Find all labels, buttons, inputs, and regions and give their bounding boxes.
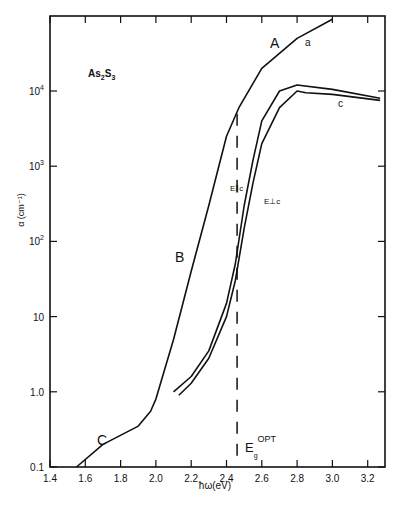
label-a: a — [305, 37, 311, 48]
plot-frame — [50, 16, 385, 467]
plot-area: 1.41.61.82.02.22.42.62.83.03.20.11.01010… — [16, 16, 385, 491]
x-tick-label: 2.2 — [184, 473, 198, 484]
y-tick-label: 10 — [33, 312, 45, 323]
y-axis-label: α (cm⁻¹) — [16, 193, 26, 227]
label-B: B — [175, 249, 184, 265]
material-title: As2S3 — [88, 68, 115, 81]
x-axis-label: ħω(eV) — [199, 480, 231, 491]
x-tick-label: 3.2 — [361, 473, 375, 484]
chart: 1.41.61.82.02.22.42.62.83.03.20.11.01010… — [0, 0, 397, 506]
label-e-parallel-c: E∥c — [230, 184, 243, 193]
x-tick-label: 1.6 — [78, 473, 92, 484]
y-tick-label: 0.1 — [30, 462, 44, 473]
x-tick-label: 2.0 — [149, 473, 163, 484]
label-e-perp-c: E⊥c — [264, 197, 280, 206]
label-C: C — [97, 432, 107, 448]
label-c: c — [338, 98, 343, 109]
x-tick-label: 1.4 — [43, 473, 57, 484]
label-A: A — [270, 35, 280, 51]
x-tick-label: 3.0 — [325, 473, 339, 484]
y-tick-label: 1.0 — [30, 387, 44, 398]
label-eg-opt: EgOPT — [245, 434, 277, 460]
curve-e-parallel-c — [174, 85, 381, 392]
y-tick-label: 103 — [29, 159, 44, 172]
y-tick-label: 102 — [29, 234, 44, 247]
x-tick-label: 1.8 — [114, 473, 128, 484]
y-tick-label: 104 — [29, 84, 44, 97]
x-tick-label: 2.8 — [290, 473, 304, 484]
x-tick-label: 2.6 — [255, 473, 269, 484]
